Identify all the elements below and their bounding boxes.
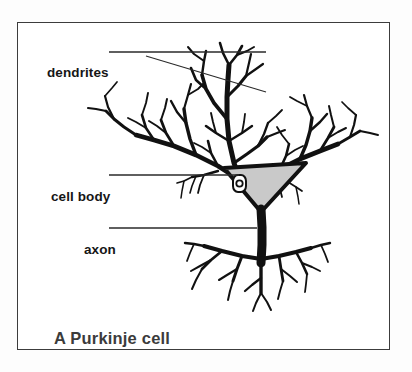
figure-caption: A Purkinje cell [54, 329, 170, 348]
nucleus-icon [233, 175, 246, 192]
purkinje-cell-figure: dendrites cell body axon A Purkinje cell [0, 0, 412, 372]
diagram-frame: dendrites cell body axon A Purkinje cell [17, 22, 390, 350]
label-dendrites: dendrites [47, 65, 109, 80]
label-cell-body: cell body [51, 189, 110, 204]
axon-shaft [261, 209, 262, 263]
label-axon: axon [84, 242, 116, 257]
